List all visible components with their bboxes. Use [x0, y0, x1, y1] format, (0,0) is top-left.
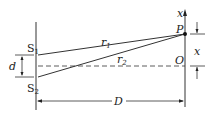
label-x: x — [194, 45, 201, 58]
label-d: d — [9, 60, 16, 73]
label-o: O — [175, 54, 184, 67]
ray-r2 — [38, 34, 185, 77]
label-p: P — [175, 23, 184, 36]
label-s1: S1 — [27, 42, 39, 56]
point-p — [183, 32, 187, 36]
axis-arrow-icon — [183, 9, 187, 16]
label-s2: S2 — [27, 82, 39, 96]
label-axis-x: x — [177, 7, 184, 20]
label-r2: r2 — [117, 53, 127, 67]
double-slit-diagram: S1 S2 d r1 r2 P O x x D — [0, 0, 216, 125]
ray-r1 — [38, 34, 185, 55]
label-D: D — [113, 95, 123, 108]
label-r1: r1 — [101, 36, 111, 50]
